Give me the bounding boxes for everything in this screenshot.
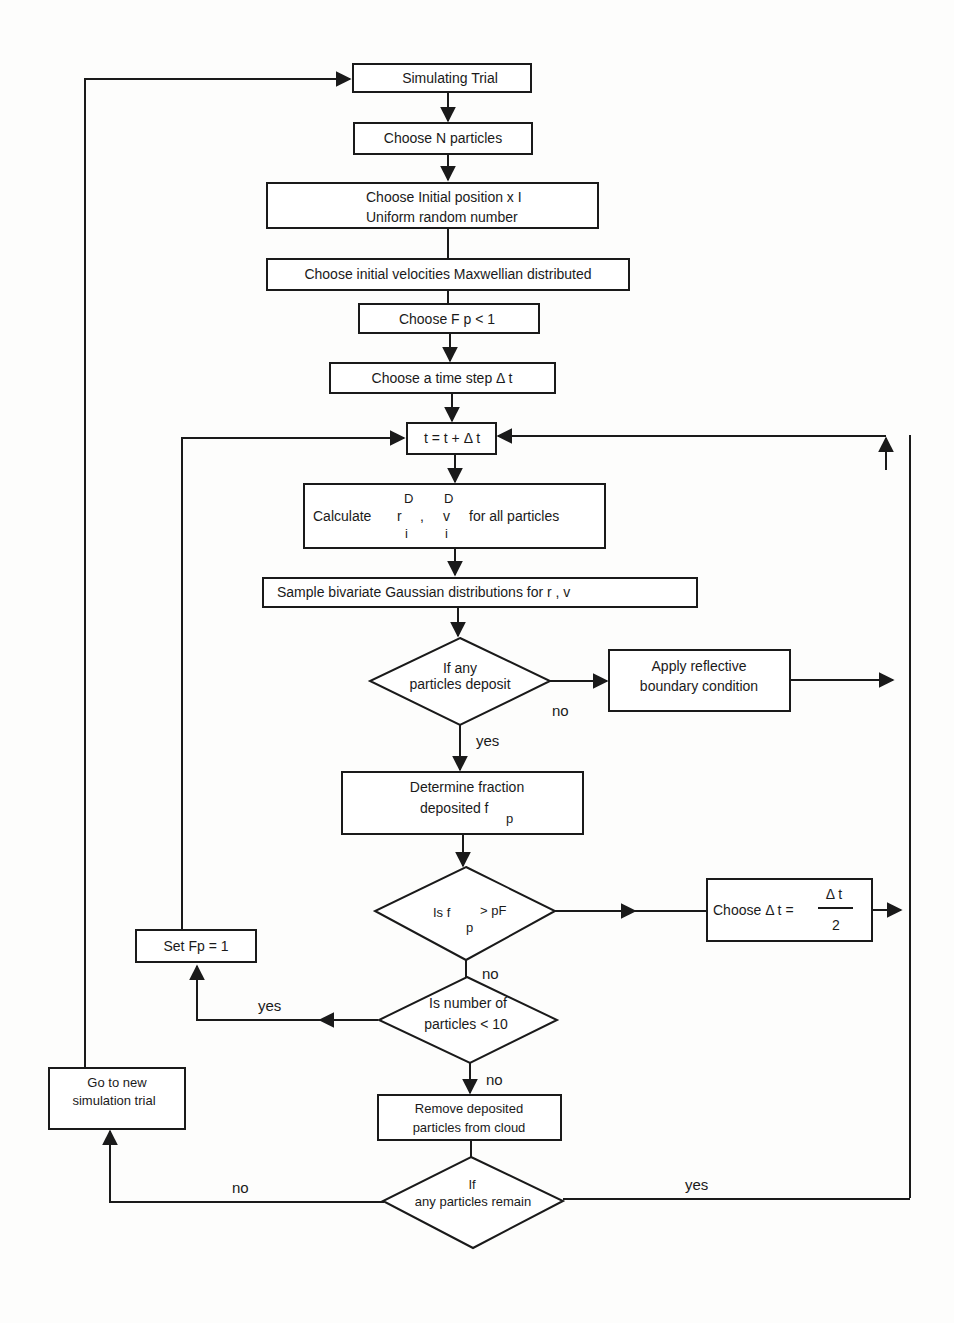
svg-text:,: , xyxy=(420,508,424,524)
node-reflective-boundary: Apply reflective boundary condition xyxy=(609,650,790,711)
edge-label-no: no xyxy=(232,1179,249,1196)
svg-text:boundary condition: boundary condition xyxy=(640,678,758,694)
svg-text:If: If xyxy=(468,1177,476,1192)
decision-fp-greater: Is f > pF p xyxy=(375,867,555,960)
node-new-trial: Go to new simulation trial xyxy=(49,1068,185,1129)
node-choose-dt: Choose a time step Δ t xyxy=(330,363,555,393)
node-label: Choose a time step Δ t xyxy=(372,370,513,386)
node-simulating-trial: Simulating Trial xyxy=(353,64,531,92)
node-choose-n: Choose N particles xyxy=(354,123,532,154)
svg-text:i: i xyxy=(445,526,448,541)
node-label: Uniform random number xyxy=(366,209,518,225)
node-label: Simulating Trial xyxy=(402,70,498,86)
node-determine-fraction: Determine fraction deposited f p xyxy=(342,772,583,834)
node-choose-fp: Choose F p < 1 xyxy=(359,304,539,333)
svg-text:v: v xyxy=(443,508,450,524)
decision-num-particles: Is number of particles < 10 xyxy=(379,977,557,1063)
node-label: Choose initial velocities Maxwellian dis… xyxy=(304,266,591,282)
svg-text:p: p xyxy=(466,920,473,935)
node-label: Calculate xyxy=(313,508,372,524)
node-label: t = t + Δ t xyxy=(424,430,480,446)
decision-particles-remain: If any particles remain xyxy=(383,1157,563,1248)
node-label: Choose Initial position x I xyxy=(366,189,522,205)
svg-text:particles from cloud: particles from cloud xyxy=(413,1120,526,1135)
decision-particles-deposit: If any particles deposit xyxy=(370,638,550,725)
node-label: Choose F p < 1 xyxy=(399,311,495,327)
node-choose-position: Choose Initial position x I Uniform rand… xyxy=(267,183,598,228)
node-t-update: t = t + Δ t xyxy=(407,423,496,454)
svg-text:p: p xyxy=(506,811,513,826)
flowchart-svg: Simulating Trial Choose N particles Choo… xyxy=(0,0,954,1323)
svg-text:particles < 10: particles < 10 xyxy=(424,1016,508,1032)
node-set-fp: Set Fp = 1 xyxy=(136,930,256,962)
svg-text:> pF: > pF xyxy=(480,903,506,918)
svg-text:Remove deposited: Remove deposited xyxy=(415,1101,523,1116)
svg-text:simulation trial: simulation trial xyxy=(72,1093,155,1108)
edge-label-no: no xyxy=(482,965,499,982)
node-remove-deposited: Remove deposited particles from cloud xyxy=(378,1095,561,1140)
svg-text:D: D xyxy=(444,491,453,506)
svg-text:Is number of: Is number of xyxy=(429,995,507,1011)
svg-text:D: D xyxy=(404,491,413,506)
edge-label-yes: yes xyxy=(258,997,281,1014)
svg-text:deposited f: deposited f xyxy=(420,800,489,816)
svg-text:for all particles: for all particles xyxy=(469,508,559,524)
svg-text:particles deposit: particles deposit xyxy=(409,676,510,692)
svg-text:any particles remain: any particles remain xyxy=(415,1194,531,1209)
node-label: Sample bivariate Gaussian distributions … xyxy=(277,584,570,600)
edge-label-yes: yes xyxy=(476,732,499,749)
edge-label-no: no xyxy=(552,702,569,719)
node-choose-velocities: Choose initial velocities Maxwellian dis… xyxy=(267,259,629,290)
svg-text:Apply reflective: Apply reflective xyxy=(652,658,747,674)
svg-text:Choose Δ t =: Choose Δ t = xyxy=(713,902,794,918)
node-sample-gaussian: Sample bivariate Gaussian distributions … xyxy=(263,578,697,607)
svg-text:Is f: Is f xyxy=(433,905,451,920)
flowchart-canvas: Simulating Trial Choose N particles Choo… xyxy=(0,0,954,1323)
node-halve-dt: Choose Δ t = Δ t 2 xyxy=(707,879,872,941)
svg-text:2: 2 xyxy=(832,917,840,933)
svg-text:i: i xyxy=(405,526,408,541)
edge-label-yes: yes xyxy=(685,1176,708,1193)
svg-text:Set Fp = 1: Set Fp = 1 xyxy=(164,938,229,954)
svg-text:r: r xyxy=(397,508,402,524)
edge-label-no: no xyxy=(486,1071,503,1088)
svg-text:If any: If any xyxy=(443,660,477,676)
node-calculate: Calculate r D i , v D i for all particle… xyxy=(304,484,605,548)
svg-text:Δ t: Δ t xyxy=(826,886,842,902)
node-label: Choose N particles xyxy=(384,130,502,146)
svg-text:Determine fraction: Determine fraction xyxy=(410,779,524,795)
svg-text:Go to new: Go to new xyxy=(87,1075,147,1090)
